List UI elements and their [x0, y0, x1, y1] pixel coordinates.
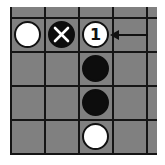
grid-line-h: [10, 51, 157, 53]
white-stone-move-1: 1: [82, 21, 109, 48]
grid-line-v: [78, 7, 80, 155]
x-mark-icon: [53, 26, 70, 43]
game-board: 1: [10, 7, 157, 155]
grid-line-h: [10, 85, 157, 87]
grid-line-h: [10, 119, 157, 121]
black-stone-marked: [48, 21, 75, 48]
grid-line-v: [10, 7, 12, 155]
white-stone: [82, 123, 109, 150]
white-stone: [14, 21, 41, 48]
black-stone: [82, 89, 109, 116]
arrow-left-icon: [110, 28, 150, 42]
grid-line-h: [10, 17, 157, 19]
black-stone: [82, 55, 109, 82]
grid-line-h: [10, 153, 157, 155]
move-number-label: 1: [90, 27, 101, 43]
grid-line-v: [44, 7, 46, 155]
